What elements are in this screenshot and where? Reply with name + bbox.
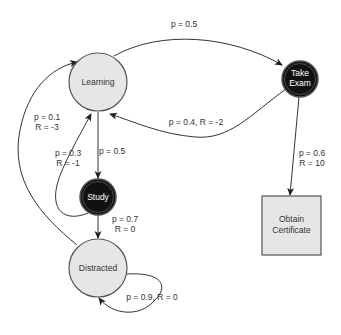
node-learning[interactable]: Learning: [69, 53, 127, 111]
label-study-to-learning-line1: p = 0.3: [55, 148, 82, 158]
node-distracted[interactable]: Distracted: [69, 239, 127, 297]
state-diagram: Learning Take Exam Study Distracted Obta…: [0, 0, 341, 335]
take-exam-label-line1: Take: [291, 68, 309, 78]
distracted-label: Distracted: [79, 263, 118, 273]
node-study[interactable]: Study: [80, 179, 116, 215]
label-learning-to-exam: p = 0.5: [171, 19, 198, 29]
take-exam-label-line2: Exam: [289, 78, 311, 88]
label-study-to-learning-line2: R = -1: [56, 158, 80, 168]
label-distracted-to-learning-line1: p = 0.1: [34, 112, 61, 122]
learning-label: Learning: [81, 77, 114, 87]
node-take-exam[interactable]: Take Exam: [282, 61, 318, 97]
label-exam-to-learning: p = 0.4, R = -2: [169, 117, 224, 127]
label-study-to-distracted-line1: p = 0.7: [112, 214, 139, 224]
edge-exam-to-learning: [110, 89, 286, 137]
node-obtain-certificate[interactable]: Obtain Certificate: [262, 196, 321, 255]
edge-learning-to-exam: [114, 39, 282, 65]
certificate-label-line1: Obtain: [279, 214, 304, 224]
label-exam-to-certificate-line2: R = 10: [299, 158, 325, 168]
edge-exam-to-certificate: [290, 97, 299, 195]
edges: [18, 39, 299, 312]
label-distracted-self: p = 0.9, R = 0: [126, 292, 178, 302]
study-label: Study: [87, 192, 109, 202]
label-learning-to-study: p = 0.5: [99, 146, 126, 156]
label-study-to-distracted-line2: R = 0: [115, 224, 136, 234]
label-exam-to-certificate-line1: p = 0.6: [299, 148, 326, 158]
label-distracted-to-learning-line2: R = -3: [35, 122, 59, 132]
certificate-label-line2: Certificate: [272, 225, 311, 235]
